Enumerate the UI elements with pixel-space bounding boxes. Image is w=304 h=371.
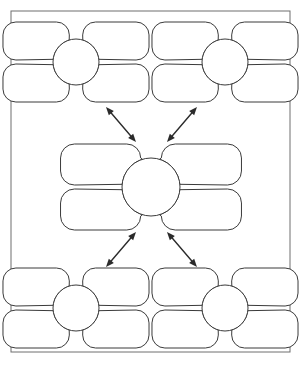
arrow-center-to-bottom-right[interactable] [167,232,197,267]
flower-node-top-left[interactable] [3,22,149,102]
flower-node-top-right-center-circle[interactable] [202,39,248,85]
arrow-center-to-bottom-left[interactable] [106,232,136,267]
flower-node-bottom-left[interactable] [3,268,149,348]
arrow-center-to-top-left[interactable] [106,107,136,142]
node-layer [3,22,298,348]
flower-node-center-center-circle[interactable] [122,158,180,216]
flower-node-center[interactable] [61,144,242,230]
flower-node-top-left-center-circle[interactable] [53,39,99,85]
flower-node-bottom-right[interactable] [152,268,298,348]
concept-map-diagram [0,0,304,371]
flower-node-bottom-right-center-circle[interactable] [202,285,248,331]
worksheet-canvas [0,0,304,371]
flower-node-top-right[interactable] [152,22,298,102]
arrow-center-to-bottom-right-line [170,236,193,263]
flower-node-bottom-left-center-circle[interactable] [53,285,99,331]
arrow-center-to-bottom-left-line [109,236,132,263]
arrow-center-to-top-right-line [170,111,193,138]
arrow-center-to-top-left-line [109,111,132,138]
arrow-center-to-top-right[interactable] [167,107,197,142]
